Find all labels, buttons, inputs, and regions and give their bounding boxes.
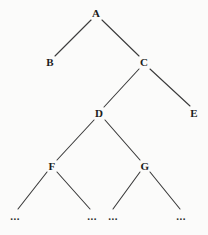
tree-ellipsis-node-4: ... bbox=[176, 211, 186, 222]
tree-node-a: A bbox=[92, 8, 100, 19]
tree-edge-c-to-d bbox=[104, 69, 139, 107]
tree-edge-f-to-e1 bbox=[18, 172, 47, 209]
tree-diagram-canvas: ABCDEFG............ bbox=[0, 0, 208, 235]
tree-edge-a-to-b bbox=[55, 20, 91, 56]
tree-edge-c-to-e bbox=[150, 69, 190, 106]
tree-edge-d-to-f bbox=[57, 120, 94, 160]
tree-edge-f-to-e2 bbox=[57, 172, 90, 209]
tree-edges-layer bbox=[0, 0, 208, 235]
tree-node-g: G bbox=[141, 161, 150, 172]
tree-node-e: E bbox=[190, 108, 198, 119]
tree-edge-a-to-c bbox=[102, 20, 139, 56]
tree-ellipsis-node-3: ... bbox=[108, 211, 118, 222]
tree-edge-d-to-g bbox=[105, 120, 140, 160]
tree-edge-g-to-e4 bbox=[150, 172, 180, 209]
tree-node-b: B bbox=[46, 57, 54, 68]
tree-ellipsis-node-1: ... bbox=[10, 211, 20, 222]
tree-node-d: D bbox=[95, 108, 103, 119]
tree-ellipsis-node-2: ... bbox=[87, 211, 97, 222]
tree-edge-g-to-e3 bbox=[113, 172, 140, 209]
tree-node-f: F bbox=[49, 161, 56, 172]
tree-node-c: C bbox=[140, 57, 148, 68]
